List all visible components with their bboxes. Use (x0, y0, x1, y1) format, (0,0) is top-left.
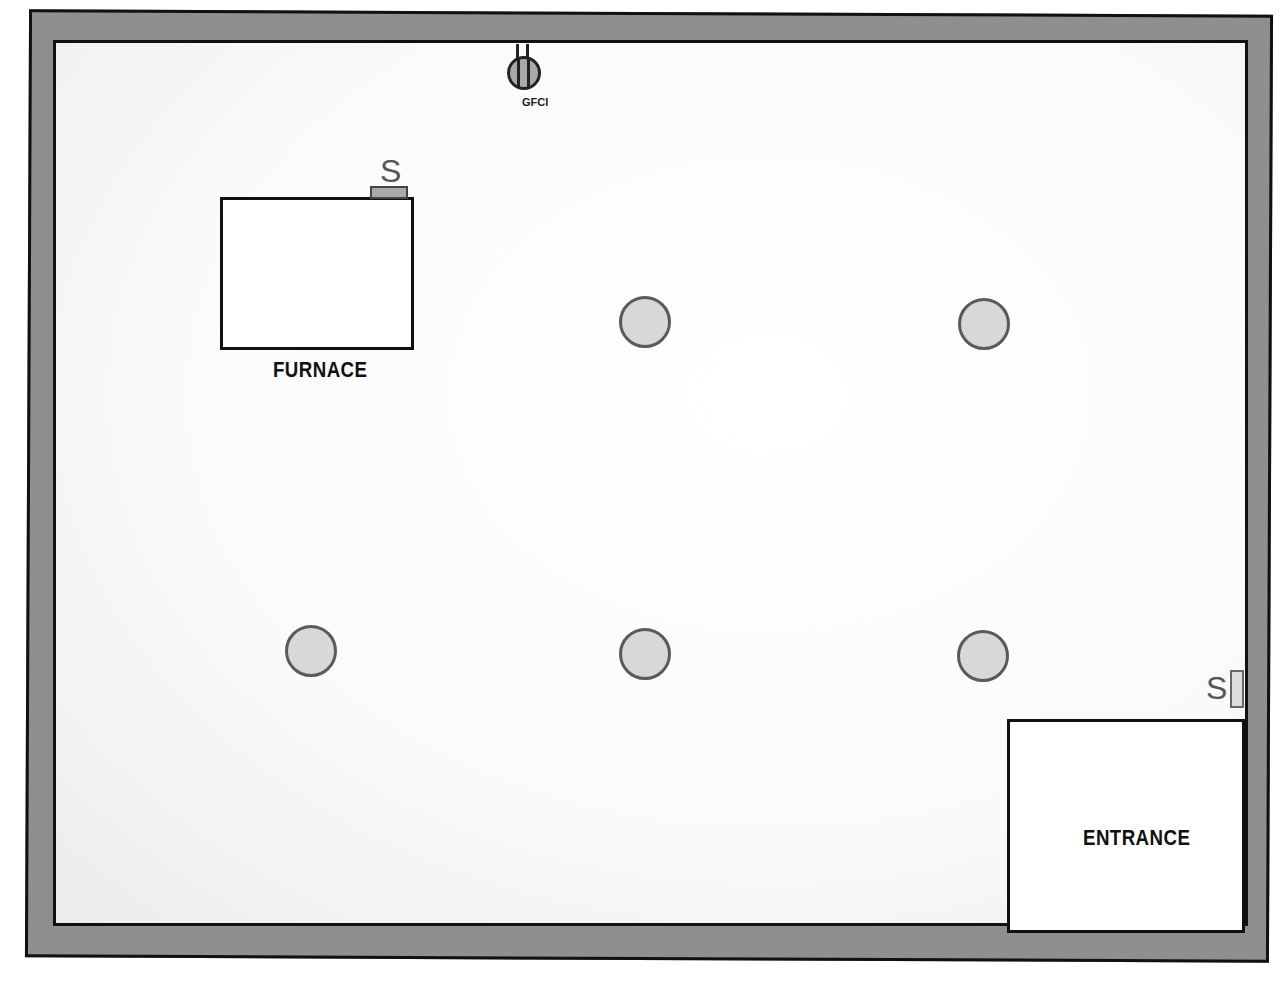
entrance-switch-label: S (1206, 672, 1227, 704)
light-fixture-icon (958, 298, 1010, 350)
light-fixture-icon (619, 296, 671, 348)
light-fixture-icon (957, 630, 1009, 682)
gfci-label: GFCI (522, 96, 548, 108)
floor-plan-diagram: GFCI S FURNACE S ENTRANCE (0, 0, 1284, 985)
light-fixture-icon (285, 625, 337, 677)
gfci-outlet-icon (507, 56, 541, 90)
furnace-box (220, 197, 414, 350)
light-fixture-icon (619, 628, 671, 680)
entrance-label: ENTRANCE (1083, 825, 1190, 851)
entrance-switch-icon (1230, 670, 1244, 708)
furnace-switch-label: S (380, 155, 401, 187)
furnace-label: FURNACE (273, 357, 367, 383)
